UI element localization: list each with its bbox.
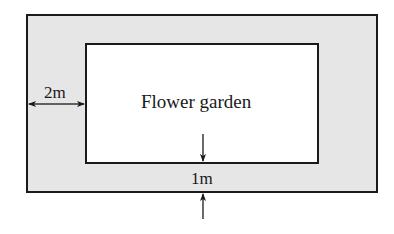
garden-path-diagram <box>0 0 394 234</box>
flower-garden-label: Flower garden <box>141 92 251 111</box>
side-width-label: 2m <box>44 84 66 101</box>
bottom-width-label: 1m <box>191 170 213 187</box>
